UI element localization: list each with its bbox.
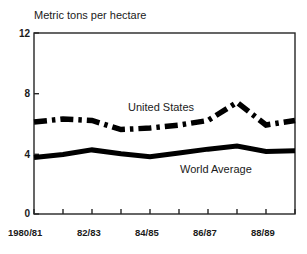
x-tick-label-86-87: 86/87: [193, 227, 217, 238]
plot-frame: [34, 33, 295, 214]
x-axis-ticks: [34, 209, 295, 214]
x-tick-label-88-89: 88/89: [251, 227, 275, 238]
series-line-world-average: [34, 146, 295, 157]
x-tick-label-1980-81: 1980/81: [8, 227, 42, 238]
y-tick-label-8: 8: [6, 88, 30, 99]
y-tick-label-12: 12: [6, 28, 30, 39]
series-annotation-united-states: United States: [128, 101, 194, 113]
series-annotation-world-average: World Average: [180, 163, 252, 175]
x-tick-label-82-83: 82/83: [77, 227, 101, 238]
plot-area: [0, 0, 307, 254]
y-tick-label-4: 4: [6, 149, 30, 160]
x-tick-label-84-85: 84/85: [135, 227, 159, 238]
y-tick-label-0: 0: [6, 208, 30, 219]
chart-figure: Metric tons per hectare 12 8: [0, 0, 307, 254]
